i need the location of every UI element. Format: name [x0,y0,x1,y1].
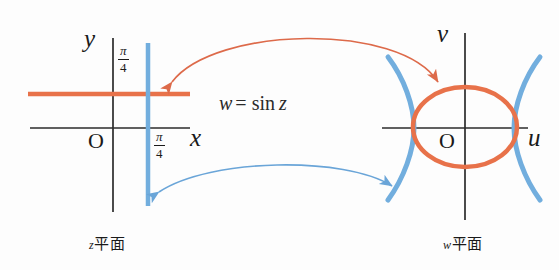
y-tick-denominator: 4 [118,61,129,75]
w-plane-origin-label: O [439,128,455,154]
z-plane-group [28,38,190,212]
formula-function: sin [250,92,275,114]
w-plane-v-axis-label: v [437,20,448,48]
w-plane-caption: w平面 [443,232,483,253]
formula-lhs: w [219,92,232,114]
w-plane-group [382,33,540,220]
formula-operator: = [232,92,249,114]
z-plane-origin-label: O [88,128,104,154]
x-tick-denominator: 4 [154,147,165,161]
z-plane-y-axis-label: y [84,25,95,53]
formula-argument: z [275,92,287,114]
w-plane-u-axis-label: u [528,124,541,152]
z-plane-y-tick-pi-over-4: π 4 [118,44,129,74]
z-plane-x-tick-pi-over-4: π 4 [154,130,165,160]
w-plane-caption-text: 平面 [452,236,483,252]
z-plane-x-axis-label: x [190,124,201,152]
sin-z-mapping-figure: y x O π 4 π 4 v u O w=sinz z平面 w平面 [0,0,559,270]
z-plane-caption: z平面 [89,232,125,253]
mapping-formula: w=sinz [219,92,287,115]
x-tick-numerator: π [154,130,165,144]
w-plane-caption-var: w [443,238,452,252]
z-plane-caption-text: 平面 [94,236,125,252]
y-tick-numerator: π [118,44,129,58]
blue-mapping-arrow [159,165,392,192]
